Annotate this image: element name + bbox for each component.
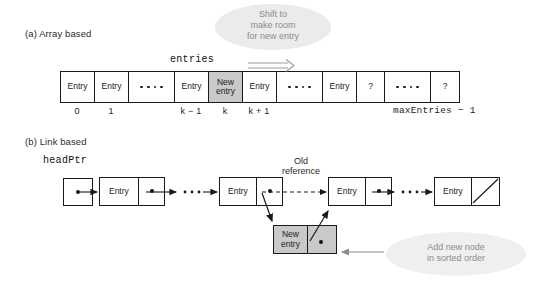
- caption-array-based: (a) Array based: [25, 28, 91, 39]
- array-cell: ?: [431, 72, 459, 102]
- node-pointer-field: [472, 178, 499, 205]
- new-entry-node-pointer-dot: [319, 240, 323, 244]
- array-index-label: k − 1: [181, 106, 202, 116]
- head-pointer-label: headPtr: [43, 155, 87, 166]
- linked-list-node: Entry: [434, 177, 500, 206]
- node-pointer-dot: [268, 189, 272, 193]
- old-reference-line2: reference: [282, 166, 320, 176]
- shift-callout-line3: for new entry: [247, 31, 299, 41]
- array-name-label: entries: [170, 54, 214, 65]
- head-pointer-dot: [76, 190, 80, 194]
- new-entry-node-label: Newentry: [274, 226, 308, 253]
- array-cell-label: Entry: [102, 82, 122, 92]
- node-data-field: Entry: [435, 178, 472, 205]
- array-index-label: 0: [74, 106, 79, 116]
- shift-callout-line1: Shift to: [259, 9, 287, 19]
- linked-list-node: Entry: [99, 177, 165, 206]
- shift-callout-line2: make room: [250, 20, 295, 30]
- array-cell-ellipsis: [277, 72, 323, 102]
- figure-canvas: (a) Array based Shift to make room for n…: [0, 0, 533, 297]
- array-cell: ?: [357, 72, 385, 102]
- node-pointer-dot: [377, 189, 381, 193]
- node-data-field: Entry: [220, 178, 257, 205]
- array-cell: Entry: [61, 72, 95, 102]
- head-pointer-box: [63, 178, 93, 206]
- linked-list-node: Entry: [328, 177, 392, 206]
- array-cell-label: Entry: [68, 82, 88, 92]
- null-pointer-slash-icon: [472, 178, 500, 205]
- array-cell-new-entry: Newentry: [209, 72, 243, 102]
- array-index-label: k + 1: [249, 106, 270, 116]
- array-cell: Entry: [243, 72, 277, 102]
- array-cell: Entry: [323, 72, 357, 102]
- array-cells-container: EntryEntryEntryNewentryEntryEntry??: [60, 71, 460, 103]
- linked-list-node: Entry: [219, 177, 283, 206]
- node-pointer-field: [257, 178, 282, 205]
- ellipsis-dots-2: [402, 191, 419, 194]
- node-data-field: Entry: [329, 178, 366, 205]
- new-entry-node-pointer-field: [308, 226, 336, 253]
- old-reference-line1: Old: [294, 156, 308, 166]
- array-cell-ellipsis: [385, 72, 431, 102]
- caption-link-based: (b) Link based: [25, 136, 87, 147]
- array-cell-label: Entry: [330, 82, 350, 92]
- array-last-index-label: maxEntries − 1: [393, 105, 476, 116]
- array-cell-label: ?: [368, 82, 373, 92]
- ellipsis-dots-1: [184, 191, 201, 194]
- array-cell-label: Entry: [250, 82, 270, 92]
- sorted-order-callout-text: Add new node in sorted order: [386, 242, 526, 264]
- ellipsis-dots-icon: [396, 86, 418, 89]
- shift-callout-text: Shift to make room for new entry: [215, 9, 331, 42]
- shift-double-arrow-icon: [248, 60, 294, 72]
- node-data-field: Entry: [100, 178, 139, 205]
- node-pointer-field: [139, 178, 164, 205]
- sorted-order-line2: in sorted order: [427, 253, 485, 263]
- old-reference-label: Old reference: [272, 156, 330, 176]
- array-index-label: 1: [108, 106, 113, 116]
- array-index-label: k: [223, 106, 228, 116]
- array-cell-ellipsis: [129, 72, 175, 102]
- array-cell-label: Newentry: [216, 78, 235, 97]
- ellipsis-dots-icon: [288, 86, 310, 89]
- new-entry-node: Newentry: [273, 225, 337, 254]
- node-pointer-dot: [150, 189, 154, 193]
- array-cell-label: Entry: [182, 82, 202, 92]
- array-cell-label: ?: [443, 82, 448, 92]
- array-cell: Entry: [95, 72, 129, 102]
- ellipsis-dots-icon: [140, 86, 162, 89]
- sorted-order-line1: Add new node: [427, 242, 485, 252]
- node-pointer-field: [366, 178, 391, 205]
- array-cell: Entry: [175, 72, 209, 102]
